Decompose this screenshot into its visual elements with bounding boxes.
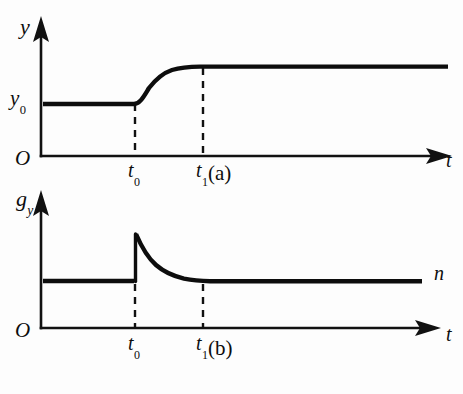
figure-canvas <box>0 0 463 394</box>
tick-label-t0-a-base: t <box>128 159 134 181</box>
origin-label-a: O <box>15 148 30 169</box>
tick-label-t0-b: t0 <box>128 333 140 357</box>
tick-label-t1-a-base: t <box>196 159 202 181</box>
data-curve-b-decay <box>136 234 422 281</box>
tick-label-t1-a: t1 <box>196 160 208 184</box>
tick-label-t0-b-base: t <box>128 332 134 354</box>
level-label-y0-sub: 0 <box>20 103 26 117</box>
y-axis-label-b-sub: y <box>27 203 33 218</box>
tick-label-t1-b: t1 <box>196 333 208 357</box>
tick-label-t0-a: t0 <box>128 160 140 184</box>
panel-b <box>33 190 441 336</box>
origin-label-b: O <box>15 320 30 341</box>
level-label-y0: y0 <box>10 88 26 113</box>
panel-a <box>33 16 452 164</box>
x-axis-label-a: t <box>446 150 452 170</box>
data-curve-a <box>43 67 448 104</box>
y-axis-label-b-base: g <box>16 186 27 211</box>
tick-label-t0-a-sub: 0 <box>134 175 140 189</box>
tick-label-t1-b-base: t <box>196 332 202 354</box>
series-label-n: n <box>434 263 444 283</box>
panel-caption-a: (a) <box>208 163 231 184</box>
panel-caption-b: (b) <box>208 338 233 359</box>
y-axis-label-b: gy <box>16 188 33 214</box>
y-axis-label-a: y <box>20 16 30 38</box>
tick-label-t0-b-sub: 0 <box>134 348 140 362</box>
figure-container: y y0 O t0 t1 t (a) gy O t0 t1 t n (b) <box>0 0 463 394</box>
x-axis-label-b: t <box>446 324 452 344</box>
level-label-y0-base: y <box>10 86 19 110</box>
